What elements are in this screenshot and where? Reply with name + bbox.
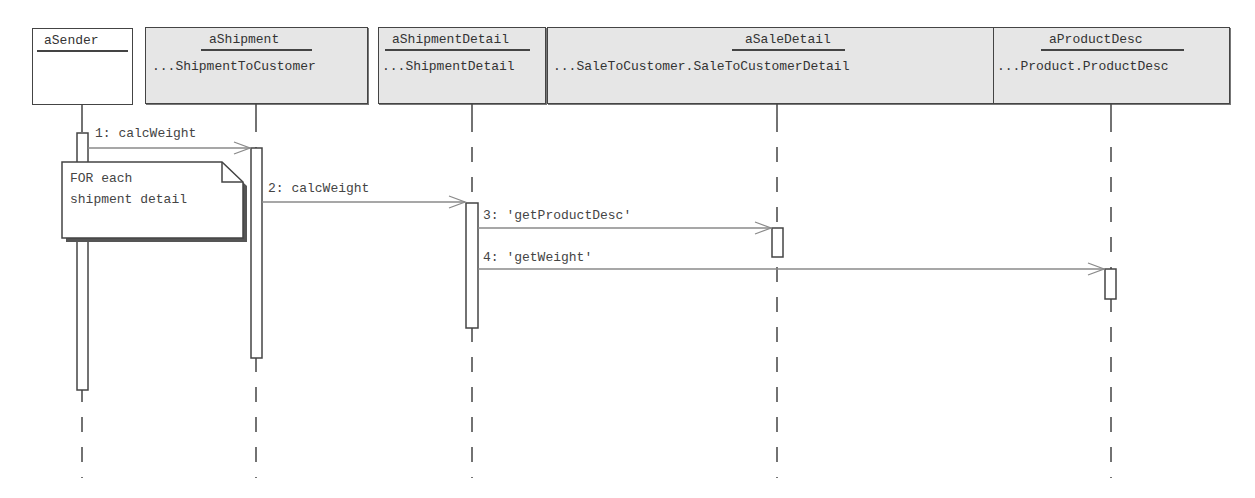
note-line-2: shipment detail <box>70 192 187 207</box>
lifelines <box>82 104 1111 478</box>
activation-bar-aproductdesc <box>1105 269 1116 299</box>
message-label-3[interactable]: 3: 'getProductDesc' <box>483 208 631 223</box>
note-line-1: FOR each <box>70 171 132 186</box>
activation-bar-ashipmentdetail <box>466 203 478 328</box>
loop-note[interactable]: FOR each shipment detail <box>62 162 243 238</box>
message-label-2[interactable]: 2: calcWeight <box>268 181 369 196</box>
message-label-1[interactable]: 1: calcWeight <box>95 126 196 141</box>
message-label-4[interactable]: 4: 'getWeight' <box>483 250 592 265</box>
activation-bar-asaledetail <box>772 228 783 257</box>
sequence-canvas <box>0 0 1255 498</box>
activation-bar-ashipment <box>251 148 262 358</box>
